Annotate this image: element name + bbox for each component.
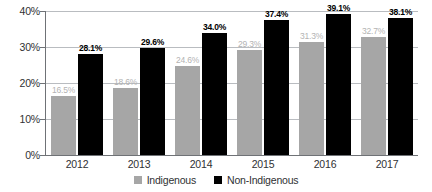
x-tick-label-2017: 2017	[356, 158, 418, 174]
bar-value-label: 24.6%	[176, 55, 199, 65]
bar-group-2014: 24.6% 34.0%	[170, 11, 232, 155]
bar-value-label: 16.5%	[52, 85, 75, 95]
bar-group-2017: 32.7% 38.1%	[356, 11, 418, 155]
bar-nonindigenous-2012: 28.1%	[78, 54, 103, 155]
legend-label-nonindigenous: Non-Indigenous	[227, 174, 298, 186]
bar-group-2015: 29.3% 37.4%	[232, 11, 294, 155]
bar-nonindigenous-2014: 34.0%	[202, 33, 227, 155]
bar-value-label: 37.4%	[265, 9, 288, 19]
bar-indigenous-2014: 24.6%	[175, 66, 200, 155]
x-axis-labels: 2012 2013 2014 2015 2016 2017	[46, 158, 418, 174]
bar-value-label: 31.3%	[300, 31, 323, 41]
bar-nonindigenous-2015: 37.4%	[264, 20, 289, 155]
bar-value-label: 29.6%	[141, 37, 164, 47]
x-tick-label-2016: 2016	[294, 158, 356, 174]
x-tick-label-2013: 2013	[108, 158, 170, 174]
bar-indigenous-2012: 16.5%	[51, 96, 76, 155]
legend-item-indigenous[interactable]: Indigenous	[134, 174, 196, 186]
bar-chart: 0% 10% 20% 30% 40% 16.5% 28.1% 18.6%	[0, 0, 432, 192]
bar-indigenous-2013: 18.6%	[113, 88, 138, 155]
bar-indigenous-2016: 31.3%	[299, 42, 324, 155]
y-tick-label-20: 20%	[2, 77, 40, 89]
black-square-icon	[214, 176, 222, 184]
bar-value-label: 34.0%	[203, 22, 226, 32]
legend-item-nonindigenous[interactable]: Non-Indigenous	[214, 174, 298, 186]
bar-value-label: 39.1%	[327, 3, 350, 13]
bar-value-label: 28.1%	[79, 43, 102, 53]
bar-group-2012: 16.5% 28.1%	[46, 11, 108, 155]
y-tick-label-10: 10%	[2, 113, 40, 125]
bar-group-2013: 18.6% 29.6%	[108, 11, 170, 155]
bar-nonindigenous-2013: 29.6%	[140, 48, 165, 155]
x-tick-label-2015: 2015	[232, 158, 294, 174]
y-axis: 0% 10% 20% 30% 40%	[0, 0, 40, 192]
bar-value-label: 18.6%	[114, 77, 137, 87]
x-tick-label-2014: 2014	[170, 158, 232, 174]
bar-value-label: 38.1%	[389, 7, 412, 17]
bar-group-2016: 31.3% 39.1%	[294, 11, 356, 155]
bar-nonindigenous-2017: 38.1%	[388, 18, 413, 155]
bar-indigenous-2015: 29.3%	[237, 50, 262, 155]
bar-groups: 16.5% 28.1% 18.6% 29.6% 24.6% 34.0%	[46, 11, 418, 155]
gray-square-icon	[134, 176, 142, 184]
legend-label-indigenous: Indigenous	[147, 174, 196, 186]
x-tick-label-2012: 2012	[46, 158, 108, 174]
bar-value-label: 29.3%	[238, 39, 261, 49]
y-tick-label-40: 40%	[2, 5, 40, 17]
bar-nonindigenous-2016: 39.1%	[326, 14, 351, 155]
y-tick-label-30: 30%	[2, 41, 40, 53]
y-tick-label-0: 0%	[2, 149, 40, 161]
x-axis-line	[45, 155, 418, 156]
chart-legend: Indigenous Non-Indigenous	[0, 174, 432, 186]
bar-indigenous-2017: 32.7%	[361, 37, 386, 155]
bar-value-label: 32.7%	[362, 26, 385, 36]
